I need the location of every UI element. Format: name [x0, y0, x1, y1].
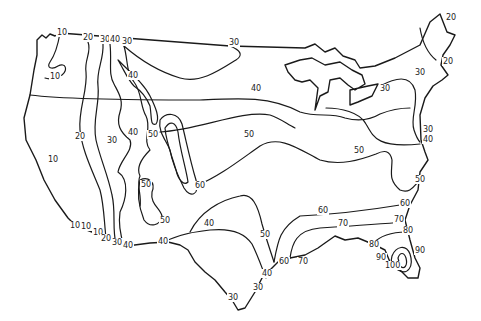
contour-label: 30 [253, 283, 263, 292]
contour-label: 80 [369, 240, 379, 249]
contour-label: 50 [415, 175, 425, 184]
contour-label: 40 [128, 71, 138, 80]
contour-label: 70 [338, 219, 348, 228]
contour-label: 30 [380, 84, 390, 93]
contour-label: 90 [415, 246, 425, 255]
contour-label: 60 [195, 181, 205, 190]
contour-label: 50 [354, 146, 364, 155]
contour-label: 100 [385, 261, 400, 270]
us-contour-map: 1020304030301040203040501050605040405050… [0, 0, 481, 321]
contour-label: 30 [415, 68, 425, 77]
contour-label: 10 [81, 222, 91, 231]
contour-label: 20 [83, 33, 93, 42]
contour-label: 60 [279, 257, 289, 266]
contour-label: 40 [204, 219, 214, 228]
great-lakes [285, 58, 378, 110]
contour-label: 40 [110, 35, 120, 44]
contour-label: 50 [260, 230, 270, 239]
contour-label: 30 [423, 125, 433, 134]
contour-label: 30 [112, 238, 122, 247]
contour-label: 50 [141, 180, 151, 189]
contour-label: 10 [50, 72, 60, 81]
contour-label: 30 [100, 35, 110, 44]
contour-label: 70 [298, 257, 308, 266]
contour-label: 40 [123, 241, 133, 250]
contour-label: 60 [400, 199, 410, 208]
contour-label: 30 [229, 38, 239, 47]
contour-label: 40 [158, 237, 168, 246]
contour-label: 20 [443, 57, 453, 66]
contour-label: 30 [228, 293, 238, 302]
contour-label: 50 [148, 130, 158, 139]
contour-label: 50 [160, 216, 170, 225]
contour-label: 30 [122, 37, 132, 46]
contour-labels: 1020304030301040203040501050605040405050… [47, 13, 457, 302]
contour-label: 40 [423, 135, 433, 144]
contour-label: 10 [70, 221, 80, 230]
contour-label: 50 [244, 130, 254, 139]
contour-label: 30 [107, 136, 117, 145]
contour-label: 20 [101, 234, 111, 243]
contour-label: 80 [403, 226, 413, 235]
contour-label: 10 [57, 28, 67, 37]
contour-label: 40 [251, 84, 261, 93]
contour-label: 10 [48, 155, 58, 164]
contour-label: 40 [262, 269, 272, 278]
contour-label: 70 [394, 215, 404, 224]
contour-label: 20 [75, 132, 85, 141]
contour-label: 20 [446, 13, 456, 22]
contour-label: 40 [128, 128, 138, 137]
contour-label: 60 [318, 206, 328, 215]
